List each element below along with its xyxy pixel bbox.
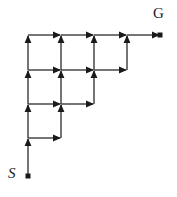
edge-layer	[0, 0, 177, 197]
arrowhead-up-icon	[25, 35, 32, 43]
arrowhead-right-icon	[119, 32, 127, 39]
arrowhead-up-icon	[124, 35, 131, 43]
arrowhead-up-icon	[91, 35, 98, 43]
arrowhead-up-icon	[91, 70, 98, 78]
arrowhead-right-icon	[86, 67, 94, 74]
lattice-path-figure: S G	[0, 0, 177, 197]
arrowhead-right-icon	[86, 101, 94, 108]
goal-marker	[158, 33, 163, 38]
arrowhead-right-icon	[53, 135, 61, 142]
start-marker	[26, 174, 31, 179]
start-node-label: S	[8, 166, 16, 181]
arrowhead-right-icon	[53, 67, 61, 74]
arrowhead-up-icon	[58, 35, 65, 43]
arrowhead-up-icon	[25, 138, 32, 146]
arrowhead-right-icon	[119, 67, 127, 74]
arrowhead-right-icon	[53, 32, 61, 39]
arrowhead-up-icon	[58, 70, 65, 78]
arrowhead-right-icon	[53, 101, 61, 108]
arrowhead-up-icon	[58, 104, 65, 112]
arrowhead-up-icon	[25, 70, 32, 78]
goal-node-label: G	[153, 6, 164, 21]
arrowhead-right-icon	[86, 32, 94, 39]
arrowhead-up-icon	[25, 104, 32, 112]
